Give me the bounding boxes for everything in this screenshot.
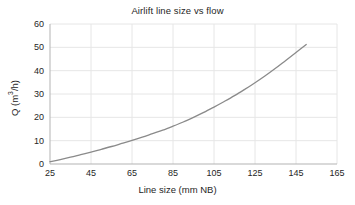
- y-tick-label: 0: [20, 159, 44, 169]
- y-tick-label: 10: [20, 136, 44, 146]
- y-tick-label: 30: [20, 89, 44, 99]
- chart-container: Airlift line size vs flow 0102030405060 …: [0, 0, 355, 205]
- y-tick-label: 20: [20, 112, 44, 122]
- y-axis-title-prefix: Q (m: [9, 95, 20, 116]
- y-tick-label: 50: [20, 42, 44, 52]
- x-tick-label: 25: [45, 168, 55, 178]
- y-tick-label: 60: [20, 19, 44, 29]
- x-tick-label: 65: [127, 168, 137, 178]
- y-axis-title-text: Q (m3/h): [9, 80, 20, 116]
- x-tick-label: 125: [247, 168, 262, 178]
- y-tick-label: 40: [20, 66, 44, 76]
- y-axis-title-exponent: 3: [7, 91, 14, 95]
- x-tick-label: 105: [206, 168, 221, 178]
- x-tick-label: 165: [329, 168, 344, 178]
- x-tick-label: 85: [168, 168, 178, 178]
- x-tick-label: 145: [288, 168, 303, 178]
- x-axis-title: Line size (mm NB): [0, 184, 355, 195]
- y-axis-title: Q (m3/h): [6, 58, 22, 138]
- x-tick-label: 45: [86, 168, 96, 178]
- grid-lines: [50, 24, 337, 164]
- y-axis-title-suffix: /h): [9, 80, 20, 91]
- series-line-flow: [50, 45, 306, 162]
